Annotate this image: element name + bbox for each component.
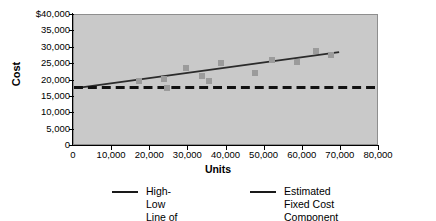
data-point-marker (269, 57, 275, 63)
y-axis-tick-mark (69, 63, 74, 64)
x-axis-title: Units (0, 163, 436, 175)
y-axis-tick-mark (69, 96, 74, 97)
y-axis-tick-label: $40,000 (18, 9, 70, 18)
x-axis-tick-mark (226, 145, 227, 150)
x-axis-tick-mark (149, 145, 150, 150)
y-axis-tick-mark (69, 129, 74, 130)
x-axis-tick-mark (340, 145, 341, 150)
plot-lines (74, 15, 377, 144)
data-point-marker (206, 78, 212, 84)
x-axis-tick-mark (111, 145, 112, 150)
x-axis-tick-mark (378, 145, 379, 150)
legend-label: Estimated Fixed Cost Component ($17,525) (284, 185, 338, 221)
y-axis-tick-mark (69, 30, 74, 31)
chart-figure: Cost 05,00010,00015,00020,00025,00030,00… (0, 0, 436, 221)
x-axis-tick-mark (302, 145, 303, 150)
y-axis-tick-label: 5,000 (18, 124, 70, 133)
data-point-marker (164, 85, 170, 91)
data-point-marker (218, 60, 224, 66)
y-axis-tick-mark (69, 80, 74, 81)
data-point-marker (199, 73, 205, 79)
y-axis-tick-label: 35,000 (18, 25, 70, 34)
legend-swatch-line-icon (250, 191, 276, 193)
y-axis-tick-mark (69, 145, 74, 146)
data-point-marker (136, 78, 142, 84)
y-axis-tick-mark (69, 112, 74, 113)
x-axis-tick-labels: 010,00020,00030,00040,00050,00060,00070,… (0, 149, 436, 163)
legend-label: High-Low Line of Cost Behavior (146, 185, 187, 221)
y-axis-tick-mark (69, 47, 74, 48)
x-axis-tick-label: 80,000 (348, 149, 408, 160)
y-axis-tick-label: 15,000 (18, 91, 70, 100)
data-point-marker (183, 65, 189, 71)
data-point-marker (294, 59, 300, 65)
y-axis-tick-label: 30,000 (18, 42, 70, 51)
y-axis-tick-label: 20,000 (18, 75, 70, 84)
y-axis-tick-mark (69, 14, 74, 15)
x-axis-tick-mark (264, 145, 265, 150)
chart-legend: High-Low Line of Cost Behavior Estimated… (0, 185, 436, 221)
data-point-marker (252, 70, 258, 76)
y-axis-tick-label: 10,000 (18, 107, 70, 116)
data-point-marker (161, 76, 167, 82)
plot-area (73, 14, 378, 145)
y-axis-tick-label: 0 (18, 140, 70, 149)
y-axis-tick-label: 25,000 (18, 58, 70, 67)
x-axis-tick-mark (187, 145, 188, 150)
data-point-marker (313, 48, 319, 54)
legend-swatch-line-icon (112, 191, 138, 193)
data-point-marker (328, 52, 334, 58)
